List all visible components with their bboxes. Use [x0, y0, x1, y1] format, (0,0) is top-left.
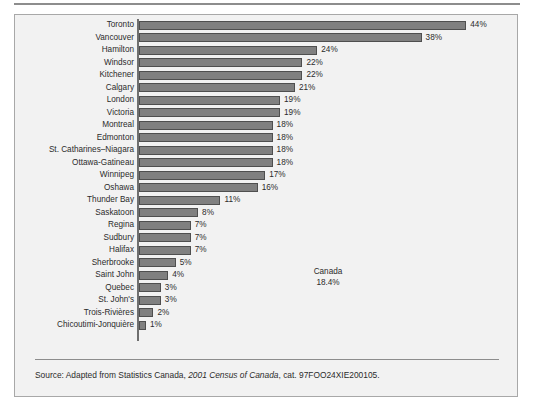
bar: [139, 258, 176, 267]
bar-value-label: 8%: [202, 207, 214, 220]
bar-category-label: Thunder Bay: [0, 194, 134, 207]
bar-value-label: 3%: [165, 294, 177, 307]
bar: [139, 321, 146, 330]
bar: [139, 121, 273, 130]
bar-row: Windsor22%: [15, 57, 519, 70]
bar: [139, 183, 258, 192]
bar-value-label: 21%: [299, 82, 315, 95]
bar-value-label: 24%: [321, 44, 337, 57]
bar-category-label: Ottawa-Gatineau: [0, 157, 134, 170]
canada-annotation-value: 18.4%: [283, 277, 373, 288]
bar: [139, 233, 191, 242]
bar-row: Winnipeg17%: [15, 169, 519, 182]
bar-row: Montreal18%: [15, 119, 519, 132]
bar-value-label: 5%: [180, 257, 192, 270]
bar-category-label: Saskatoon: [0, 207, 134, 220]
source-note: Source: Adapted from Statistics Canada, …: [35, 369, 505, 381]
bar-value-label: 3%: [165, 282, 177, 295]
bar: [139, 283, 161, 292]
bar-value-label: 1%: [150, 319, 162, 332]
bar-row: Trois-Rivières2%: [15, 307, 519, 320]
top-divider-rule: [14, 3, 520, 5]
bar-value-label: 7%: [195, 232, 207, 245]
bar-value-label: 44%: [470, 19, 486, 32]
bar: [139, 71, 303, 80]
source-prefix: Source: Adapted from Statistics Canada,: [35, 370, 188, 380]
canada-annotation-label: Canada: [283, 266, 373, 277]
bar: [139, 21, 467, 30]
bar-value-label: 18%: [277, 132, 293, 145]
bar: [139, 46, 318, 55]
bar: [139, 96, 281, 105]
bar-value-label: 22%: [306, 57, 322, 70]
bar-row: Toronto44%: [15, 19, 519, 32]
bar-value-label: 18%: [277, 144, 293, 157]
bar-value-label: 17%: [269, 169, 285, 182]
bar-category-label: London: [0, 94, 134, 107]
bar-value-label: 22%: [306, 69, 322, 82]
bar-category-label: Halifax: [0, 244, 134, 257]
bar-row: Edmonton18%: [15, 132, 519, 145]
bar-row: Ottawa-Gatineau18%: [15, 157, 519, 170]
bar: [139, 171, 266, 180]
bar-row: Sudbury7%: [15, 232, 519, 245]
bar: [139, 196, 221, 205]
bar: [139, 308, 154, 317]
bar-row: Chicoutimi-Jonquière1%: [15, 319, 519, 332]
bar-row: St. Catharines–Niagara18%: [15, 144, 519, 157]
bar-category-label: Sherbrooke: [0, 257, 134, 270]
bar-value-label: 38%: [426, 32, 442, 45]
bar-row: Thunder Bay11%: [15, 194, 519, 207]
bar-value-label: 18%: [277, 119, 293, 132]
bar-row: Oshawa16%: [15, 182, 519, 195]
source-suffix: , cat. 97FOO24XIE200105.: [279, 370, 380, 380]
bar-row: Victoria19%: [15, 107, 519, 120]
bar-category-label: Toronto: [0, 19, 134, 32]
bar-category-label: Vancouver: [0, 32, 134, 45]
bar: [139, 246, 191, 255]
bar-category-label: Sudbury: [0, 232, 134, 245]
bar-chart: Toronto44%Vancouver38%Hamilton24%Windsor…: [15, 15, 519, 345]
bar-value-label: 11%: [224, 194, 240, 207]
bar-category-label: Quebec: [0, 282, 134, 295]
bar-row: Sherbrooke5%: [15, 257, 519, 270]
bar-value-label: 7%: [195, 219, 207, 232]
bar: [139, 296, 161, 305]
source-divider-rule: [35, 359, 499, 360]
bar-value-label: 18%: [277, 157, 293, 170]
source-title: 2001 Census of Canada: [188, 370, 278, 380]
bar: [139, 108, 281, 117]
bar-category-label: Regina: [0, 219, 134, 232]
bar-category-label: Kitchener: [0, 69, 134, 82]
bar-row: Quebec3%: [15, 282, 519, 295]
bar-row: St. John's3%: [15, 294, 519, 307]
bar-row: Calgary21%: [15, 82, 519, 95]
bar-category-label: St. Catharines–Niagara: [0, 144, 134, 157]
bar: [139, 33, 422, 42]
figure-panel: Toronto44%Vancouver38%Hamilton24%Windsor…: [14, 14, 518, 397]
bar-row: Saint John4%: [15, 269, 519, 282]
bar-row: Regina7%: [15, 219, 519, 232]
bar: [139, 58, 303, 67]
bar-category-label: Victoria: [0, 107, 134, 120]
bar-value-label: 19%: [284, 94, 300, 107]
bar-row: Hamilton24%: [15, 44, 519, 57]
bar-row: Saskatoon8%: [15, 207, 519, 220]
bar-category-label: Windsor: [0, 57, 134, 70]
canada-annotation: Canada 18.4%: [283, 266, 373, 288]
bar: [139, 221, 191, 230]
bar: [139, 208, 199, 217]
bar-value-label: 19%: [284, 107, 300, 120]
bar-value-label: 2%: [157, 307, 169, 320]
bar-category-label: Hamilton: [0, 44, 134, 57]
bar-row: Vancouver38%: [15, 32, 519, 45]
bar: [139, 133, 273, 142]
bar-row: Kitchener22%: [15, 69, 519, 82]
bar-row: Halifax7%: [15, 244, 519, 257]
bar: [139, 271, 169, 280]
bar-category-label: Montreal: [0, 119, 134, 132]
bar: [139, 158, 273, 167]
bar-row: London19%: [15, 94, 519, 107]
bar-category-label: Chicoutimi-Jonquière: [0, 319, 134, 332]
bar: [139, 83, 295, 92]
